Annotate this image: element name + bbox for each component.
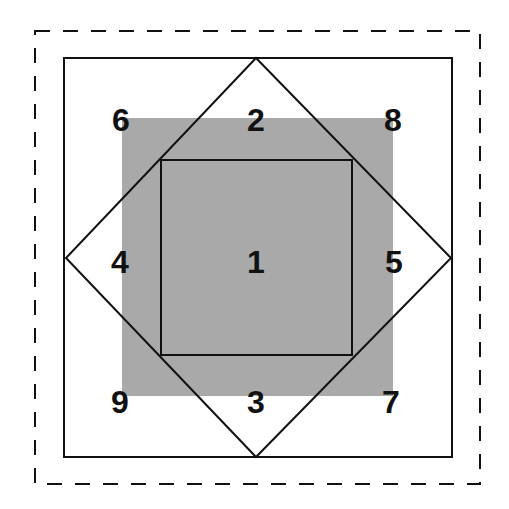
piece-label-9: 9	[111, 384, 129, 420]
piece-label-7: 7	[382, 384, 400, 420]
piece-label-2: 2	[247, 102, 265, 138]
piece-label-1: 1	[247, 244, 265, 280]
piece-label-5: 5	[385, 244, 403, 280]
quilt-block-diagram: 1 2 3 4 5 6 7 8 9	[0, 0, 509, 509]
piece-label-8: 8	[384, 102, 402, 138]
piece-label-3: 3	[247, 384, 265, 420]
piece-label-4: 4	[111, 244, 129, 280]
piece-label-6: 6	[112, 102, 130, 138]
